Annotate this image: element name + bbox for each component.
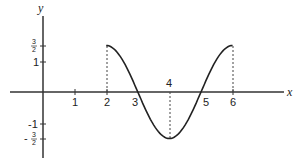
svg-text:-: - [24, 132, 28, 144]
x-tick-3: 3 [132, 96, 138, 108]
x-tick-6: 6 [230, 96, 236, 108]
svg-text:2: 2 [32, 46, 36, 53]
x-axis-label: x [286, 85, 293, 99]
svg-text:3: 3 [32, 38, 36, 45]
y-tick-neg3-2: - 3 2 [24, 131, 37, 146]
y-tick-neg1: -1 [28, 118, 38, 130]
x-tick-5: 5 [203, 96, 209, 108]
y-tick-1: 1 [33, 56, 39, 68]
x-tick-2: 2 [104, 96, 110, 108]
chart: x y 1 2 3 4 5 6 3 2 1 -1 - 3 2 [0, 0, 298, 164]
svg-text:3: 3 [32, 131, 36, 138]
svg-text:2: 2 [32, 139, 36, 146]
x-tick-1: 1 [72, 96, 78, 108]
y-axis-label: y [37, 1, 44, 15]
x-tick-4: 4 [166, 77, 172, 89]
y-tick-3-2: 3 2 [31, 38, 37, 53]
